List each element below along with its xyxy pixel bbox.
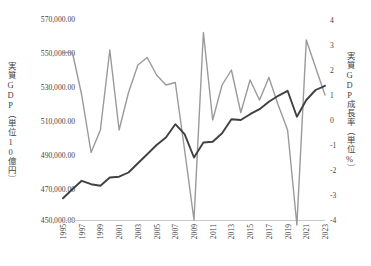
x-axis-tick: 2019	[284, 224, 293, 239]
growth-rate-line	[63, 33, 325, 226]
x-axis-tick: 2007	[171, 224, 180, 239]
gdp-dual-axis-chart: 実質GDP（単位10億円） 実質GDP成長率（単位%） 570,000.00 5…	[0, 0, 371, 266]
x-axis-tick: 1995	[59, 224, 68, 239]
x-axis-tick: 2011	[209, 224, 218, 239]
x-axis-tick: 2009	[190, 224, 199, 239]
plot-area	[0, 0, 371, 266]
x-axis-tick: 2017	[265, 224, 274, 239]
x-axis-tick: 2005	[153, 224, 162, 239]
x-axis-tick: 1997	[78, 224, 87, 239]
x-axis-tick: 1999	[96, 224, 105, 239]
x-axis-tick: 2021	[302, 224, 311, 239]
x-axis-tick: 2013	[227, 224, 236, 239]
x-axis-tick: 2003	[134, 224, 143, 239]
x-axis-tick: 2015	[246, 224, 255, 239]
gdp-level-line	[63, 86, 325, 199]
x-axis-tick: 2001	[115, 224, 124, 239]
x-axis-tick: 2023	[321, 224, 330, 239]
